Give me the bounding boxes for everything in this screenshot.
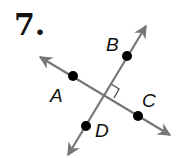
label-d: D xyxy=(95,120,109,141)
label-b: B xyxy=(106,34,119,55)
point-d xyxy=(81,121,91,131)
point-a xyxy=(68,71,78,81)
point-b xyxy=(122,51,132,61)
perpendicular-lines-diagram: A B C D xyxy=(0,0,176,158)
point-c xyxy=(133,111,143,121)
right-angle-marker xyxy=(111,84,119,98)
label-a: A xyxy=(49,85,63,106)
label-c: C xyxy=(142,90,156,111)
